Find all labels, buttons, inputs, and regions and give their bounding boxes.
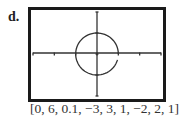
y-axis	[96, 12, 99, 96]
figure-label: d.	[8, 9, 19, 25]
window-settings-caption: [0, 6, 0.1, −3, 3, 1, −2, 2, 1]	[30, 101, 179, 117]
calculator-screen	[28, 7, 166, 102]
graph-plot	[31, 10, 163, 99]
